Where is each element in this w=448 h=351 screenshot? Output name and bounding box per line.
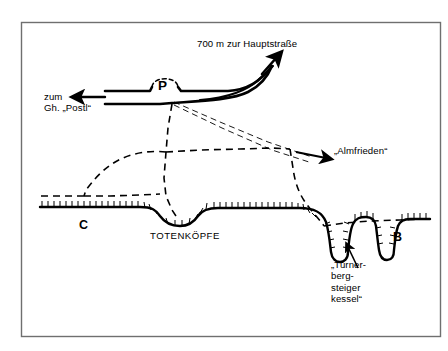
trail-mid-east (166, 148, 290, 152)
label-kessel-line2: berg- (331, 270, 354, 281)
schematic-map-figure: 700 m zur Hauptstraße zumGh. „Postl“ P „… (0, 0, 448, 351)
trail-west-branch (84, 151, 166, 196)
label-parking: P (158, 78, 167, 94)
road-network (78, 57, 277, 104)
label-kessel-line3: steiger (331, 282, 361, 293)
trail-plateau-link (84, 194, 160, 196)
label-to-postl-line1: zum (44, 91, 62, 102)
karst-surface-line (40, 207, 430, 262)
arrow-right-icon (296, 152, 326, 158)
road-upper-west (105, 87, 152, 91)
label-to-postl-line2: Gh. „Postl“ (44, 102, 91, 113)
label-kessel-line1: „Turner- (331, 259, 366, 270)
label-point-c: C (79, 218, 88, 233)
road-lower (105, 66, 272, 104)
figure-frame (22, 23, 441, 337)
label-totenkoepfe: TOTENKÖPFE (150, 230, 220, 241)
trail-east-branch (290, 149, 324, 226)
label-point-b: B (393, 230, 402, 245)
label-main-road: 700 m zur Hauptstraße (197, 38, 297, 49)
label-kessel-line4: kessel“ (331, 293, 362, 304)
map-drawing (0, 0, 448, 351)
label-almfrieden: „Almfrieden“ (334, 145, 387, 156)
trail-p-to-totenkoepfe (164, 104, 178, 219)
terrain-profile (40, 207, 430, 262)
label-to-postl: zumGh. „Postl“ (44, 91, 91, 114)
label-turnerbergsteigerkessel: „Turner-berg-steigerkessel“ (331, 259, 366, 304)
